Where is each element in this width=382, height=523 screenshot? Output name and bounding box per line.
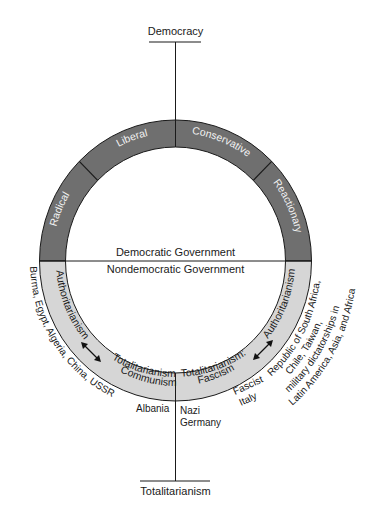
democratic-government-label: Democratic Government	[116, 246, 235, 258]
nazi-label-line2: Germany	[180, 417, 221, 428]
bottom-pole-label: Totalitarianism	[140, 485, 210, 497]
top-pole-label: Democracy	[148, 25, 204, 37]
nazi-label-line1: Nazi	[180, 405, 200, 416]
political-spectrum-diagram: Democracy Democratic Government Nondemoc…	[0, 0, 382, 523]
albania-label: Albania	[136, 403, 170, 414]
nondemocratic-government-label: Nondemocratic Government	[107, 263, 245, 275]
